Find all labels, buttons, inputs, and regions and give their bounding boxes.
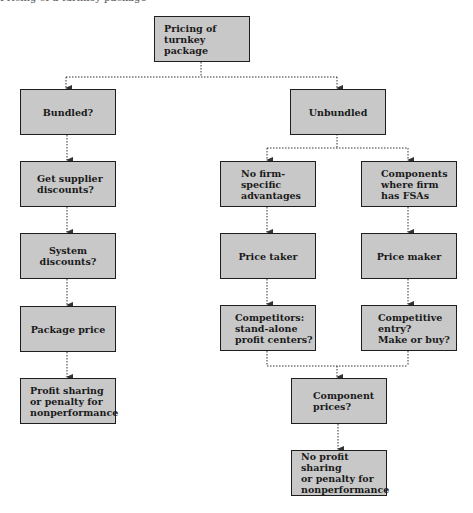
node-components-with-fsas: Components where firm has FSAs <box>361 161 457 207</box>
node-price-taker: Price taker <box>220 233 316 279</box>
node-unbundled: Unbundled <box>290 89 386 135</box>
node-no-firm-specific-advantages: No firm- specific advantages <box>220 161 316 207</box>
node-no-profit-sharing: No profit sharing or penalty for nonperf… <box>291 450 387 496</box>
node-competitors: Competitors: stand-alone profit centers? <box>220 305 316 351</box>
node-price-maker: Price maker <box>361 233 457 279</box>
node-system-discounts: System discounts? <box>20 233 116 279</box>
node-bundled: Bundled? <box>20 89 116 135</box>
flowchart: Pricing of a turnkey package <box>0 0 473 513</box>
node-supplier-discounts: Get supplier discounts? <box>20 161 116 207</box>
node-package-price: Package price <box>20 306 116 352</box>
node-profit-sharing: Profit sharing or penalty for nonperform… <box>20 378 116 424</box>
node-component-prices: Component prices? <box>291 378 387 424</box>
node-competitive-entry: Competitive entry? Make or buy? <box>361 305 457 351</box>
node-root-pricing: Pricing of turnkey package <box>154 16 250 62</box>
